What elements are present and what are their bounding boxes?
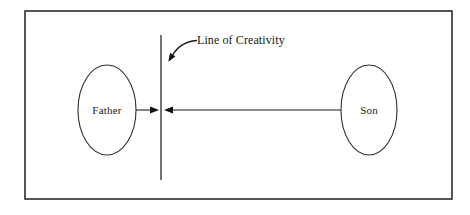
node-son-label: Son xyxy=(360,104,378,116)
node-father-label: Father xyxy=(92,104,121,116)
annotation-line-of-creativity-label: Line of Creativity xyxy=(197,33,285,47)
diagram-page: Father Son Line of Creativity xyxy=(0,0,470,215)
concept-diagram: Father Son Line of Creativity xyxy=(0,0,470,215)
